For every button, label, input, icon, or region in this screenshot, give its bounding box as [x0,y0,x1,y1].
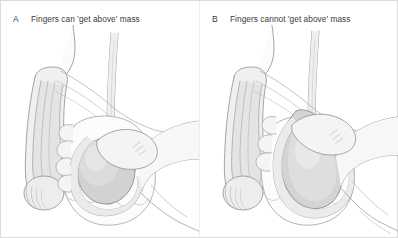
panel-a-letter: A [1,14,31,24]
panel-a-caption: Fingers can 'get above' mass [31,14,140,24]
panel-b: B Fingers cannot 'get above' mass [199,1,397,237]
panel-a: A Fingers can 'get above' mass [1,1,199,237]
figure-container: A Fingers can 'get above' mass [0,0,398,238]
panel-a-caption-row: A Fingers can 'get above' mass [1,12,199,26]
panel-b-illustration [200,25,398,237]
panel-b-letter: B [200,14,230,24]
panel-a-illustration [1,25,199,237]
panel-b-caption-row: B Fingers cannot 'get above' mass [200,12,398,26]
panel-b-caption: Fingers cannot 'get above' mass [230,14,350,24]
